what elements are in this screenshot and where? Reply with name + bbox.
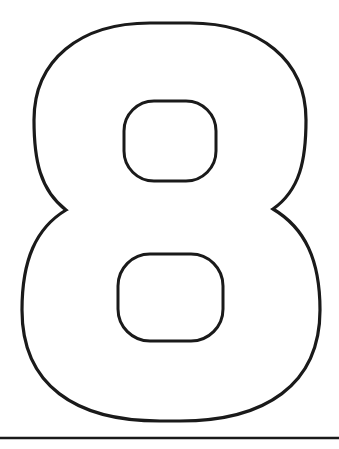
outer-outline [22,23,320,421]
numeral-eight-figure: 8 [0,0,339,449]
lower-counter-outline [118,254,223,341]
upper-counter-outline [124,101,216,181]
numeral-eight-outline [0,0,339,449]
